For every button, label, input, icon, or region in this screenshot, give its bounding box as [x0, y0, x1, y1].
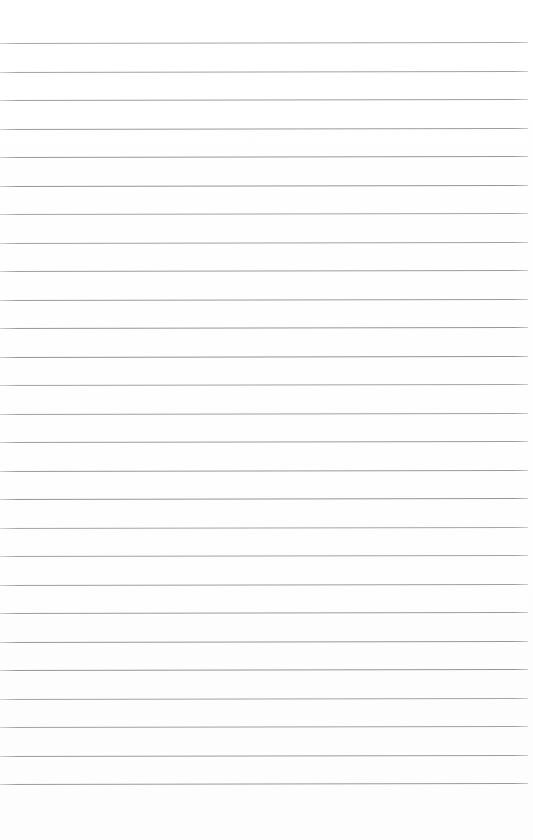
ruled-line	[0, 697, 528, 699]
ruled-line	[0, 241, 528, 243]
ruled-line	[0, 669, 528, 671]
ruled-line	[0, 42, 528, 44]
ruled-line	[0, 526, 528, 528]
ruled-line	[0, 555, 528, 557]
ruled-line	[0, 754, 528, 756]
ruled-paper-page	[0, 0, 533, 840]
ruled-line	[0, 469, 528, 471]
ruled-line	[0, 213, 528, 215]
ruled-line	[0, 726, 528, 728]
ruled-line	[0, 156, 528, 158]
ruled-line	[0, 298, 528, 300]
ruled-line	[0, 127, 528, 129]
ruled-line	[0, 384, 528, 386]
ruled-line	[0, 184, 528, 186]
ruled-line	[0, 583, 528, 585]
ruled-line	[0, 270, 528, 272]
ruled-lines-layer	[0, 0, 533, 840]
ruled-line	[0, 412, 528, 414]
ruled-line	[0, 355, 528, 357]
ruled-line	[0, 498, 528, 500]
ruled-line	[0, 783, 528, 785]
ruled-line	[0, 612, 528, 614]
ruled-line	[0, 327, 528, 329]
ruled-line	[0, 441, 528, 443]
ruled-line	[0, 99, 528, 101]
ruled-line	[0, 70, 528, 72]
ruled-line	[0, 640, 528, 642]
